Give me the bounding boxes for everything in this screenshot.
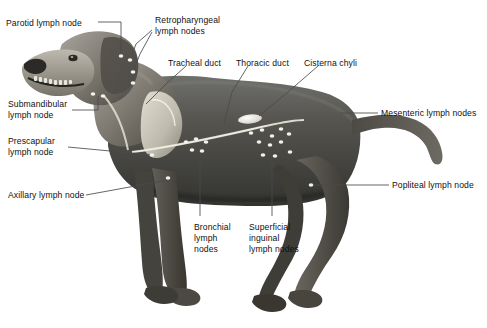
label-popliteal-lymph-node: Popliteal lymph node	[392, 180, 474, 190]
label-retropharyngeal-line1: Retropharyngeal	[155, 15, 220, 25]
label-inguinal-line2: inguinal	[249, 233, 279, 243]
label-inguinal-line3: lymph nodes	[249, 244, 299, 254]
lymph-node-marker-inguinal	[261, 153, 266, 157]
label-mesenteric-lymph-nodes: Mesenteric lymph nodes	[381, 108, 476, 118]
lymph-node-marker-axillary	[166, 176, 171, 180]
lymph-node-marker-mesenteric	[279, 140, 284, 144]
lymph-node-marker-mesenteric	[279, 127, 284, 131]
lymph-node-marker-popliteal	[309, 183, 314, 187]
label-cisterna-chyli: Cisterna chyli	[304, 58, 357, 68]
lymph-node-marker-bronchial	[200, 149, 205, 153]
label-parotid-lymph-node: Parotid lymph node	[6, 18, 82, 28]
dog-tail	[352, 115, 443, 165]
label-prescapular-line1: Prescapular	[8, 136, 55, 146]
label-retropharyngeal-line2: lymph nodes	[155, 26, 205, 36]
label-bronchial-line1: Bronchial	[194, 222, 231, 232]
lymph-node-marker-inguinal	[288, 150, 293, 154]
label-submandibular-line1: Submandibular	[8, 99, 67, 109]
lymph-node-marker-retropharyngeal	[128, 58, 133, 62]
label-prescapular-line2: lymph node	[8, 147, 53, 157]
label-axillary-lymph-node: Axillary lymph node	[8, 190, 84, 200]
lymph-node-marker-mesenteric	[270, 134, 275, 138]
lymph-node-marker-bronchial	[190, 148, 195, 152]
figure-canvas: Parotid lymph node Retropharyngeal lymph…	[0, 0, 487, 328]
lymph-node-marker-bronchial	[204, 140, 209, 144]
label-thoracic-duct: Thoracic duct	[236, 58, 289, 68]
dog-anatomy-illustration	[0, 0, 487, 328]
lymph-node-marker-mesenteric	[257, 140, 262, 144]
lymph-node-marker-submandibular	[101, 94, 106, 98]
lymph-node-marker-submandibular	[91, 92, 96, 96]
lymph-node-marker-mesenteric	[249, 131, 254, 135]
lymph-node-marker-prescapular	[150, 153, 155, 157]
lymph-node-marker-inguinal	[273, 154, 278, 158]
lymph-node-marker-retropharyngeal	[131, 70, 136, 74]
lymph-node-marker-mesenteric	[287, 132, 292, 136]
lymph-node-marker-bronchial	[184, 140, 189, 144]
lymph-node-marker-mesenteric	[268, 143, 273, 147]
lymph-node-marker-bronchial	[194, 137, 199, 141]
label-tracheal-duct: Tracheal duct	[168, 58, 221, 68]
lymph-node-marker-mesenteric	[260, 128, 265, 132]
label-submandibular-line2: lymph node	[8, 110, 53, 120]
lymph-node-marker-retropharyngeal	[131, 81, 136, 85]
lymph-node-marker-parotid	[119, 54, 124, 58]
label-bronchial-line3: nodes	[194, 244, 218, 254]
label-bronchial-line2: lymph	[194, 233, 217, 243]
label-inguinal-line1: Superficial	[249, 222, 290, 232]
